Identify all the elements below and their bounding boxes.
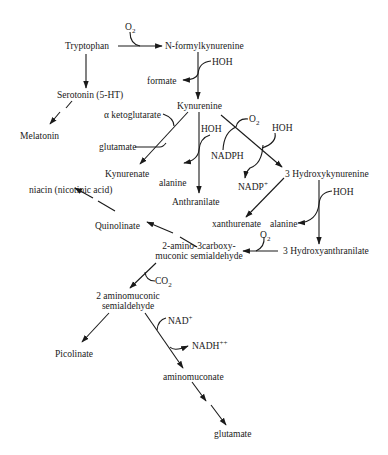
pathway-diagram: O2 HOH O2 HOH HOH HOH O2 CO2 Tryptophan …: [0, 0, 388, 455]
arrow-quin-niacin-seg: [98, 201, 115, 211]
node-glutamate-2: glutamate: [214, 429, 251, 439]
node-2-aminomuconic-semialdehyde: 2 aminomuconic semialdehyde: [96, 291, 160, 311]
node-alanine-1: alanine: [159, 178, 186, 188]
cofactor-o2-3: O2: [260, 230, 270, 244]
o2-curve-2: [236, 119, 248, 127]
arrow-acms-to-quinolinate: [147, 222, 173, 233]
node-alanine-2: alanine: [270, 219, 297, 229]
arrow-to-nadp: [245, 145, 263, 178]
node-glutamate-1: glutamate: [99, 142, 136, 152]
arrow-acms-to-ams: [130, 263, 156, 288]
node-acms-line2: muconic semialdehyde: [155, 251, 242, 261]
node-tryptophan: Tryptophan: [65, 41, 109, 51]
node-3-hydroxyanthranilate: 3 Hydroxyanthranilate: [283, 246, 369, 256]
arrow-aminomuconate-seg1: [192, 382, 206, 401]
arrow-aminomuconate-to-glutamate: [211, 405, 226, 425]
node-kynurenate: Kynurenate: [105, 169, 149, 179]
node-aminomuconate: aminomuconate: [163, 372, 224, 382]
node-serotonin: Serotonin (5-HT): [57, 90, 123, 100]
arrow-to-alanine-1: [184, 135, 210, 163]
cofactor-co2: CO2: [155, 276, 172, 290]
node-ams-line2: semialdehyde: [96, 301, 160, 311]
node-anthranilate: Anthranilate: [172, 197, 219, 207]
node-nadp-plus: NADP+: [238, 179, 268, 192]
cofactor-hoh-2: HOH: [201, 124, 222, 134]
node-kynurenine: Kynurenine: [177, 101, 222, 111]
node-3-hydroxykynurenine: 3 Hydroxykynurenine: [285, 169, 369, 179]
pathway-arrows: [0, 0, 388, 455]
cofactor-o2-2: O2: [249, 114, 259, 128]
node-formate: formate: [147, 76, 177, 86]
aketo-curve: [163, 114, 174, 126]
node-quinolinate: Quinolinate: [95, 221, 140, 231]
node-nadh: NADH++: [192, 338, 227, 351]
node-xanthurenate: xanthurenate: [212, 219, 261, 229]
node-ams-line1: 2 aminomuconic: [96, 291, 160, 301]
node-niacin: niacin (nicotinic acid): [29, 185, 112, 195]
cofactor-hoh-3: HOH: [272, 123, 293, 133]
node-n-formylkynurenine: N-formylkynurenine: [165, 41, 244, 51]
arrow-serotonin-to-melatonin: [50, 112, 60, 124]
node-nad-plus: NAD+: [168, 313, 193, 326]
arrow-serotonin-melatonin-seg1: [66, 101, 72, 108]
node-acms-line1: 2-amino-3carboxy-: [155, 241, 242, 251]
cofactor-o2-1: O2: [125, 22, 135, 36]
node-alpha-ketoglutarate: α ketoglutarate: [104, 110, 161, 120]
arrow-ams-to-picolinate: [82, 313, 109, 342]
node-acms: 2-amino-3carboxy- muconic semialdehyde: [155, 241, 242, 261]
node-nadph: NADPH: [211, 151, 244, 161]
node-melatonin: Melatonin: [20, 131, 59, 141]
glutamate-curve: [135, 143, 166, 147]
cofactor-hoh-1: HOH: [212, 57, 233, 67]
cofactor-hoh-4: HOH: [333, 187, 354, 197]
node-picolinate: Picolinate: [55, 349, 93, 359]
hoh-curve-1: [198, 61, 211, 74]
arrow-to-alanine-2: [298, 191, 332, 223]
nadph-curve: [223, 127, 236, 150]
arrow-to-formate: [183, 74, 198, 80]
co2-curve: [145, 272, 155, 281]
arrow-to-nadh: [170, 346, 188, 349]
nad-curve: [157, 318, 166, 330]
hoh-curve-2: [262, 133, 275, 148]
